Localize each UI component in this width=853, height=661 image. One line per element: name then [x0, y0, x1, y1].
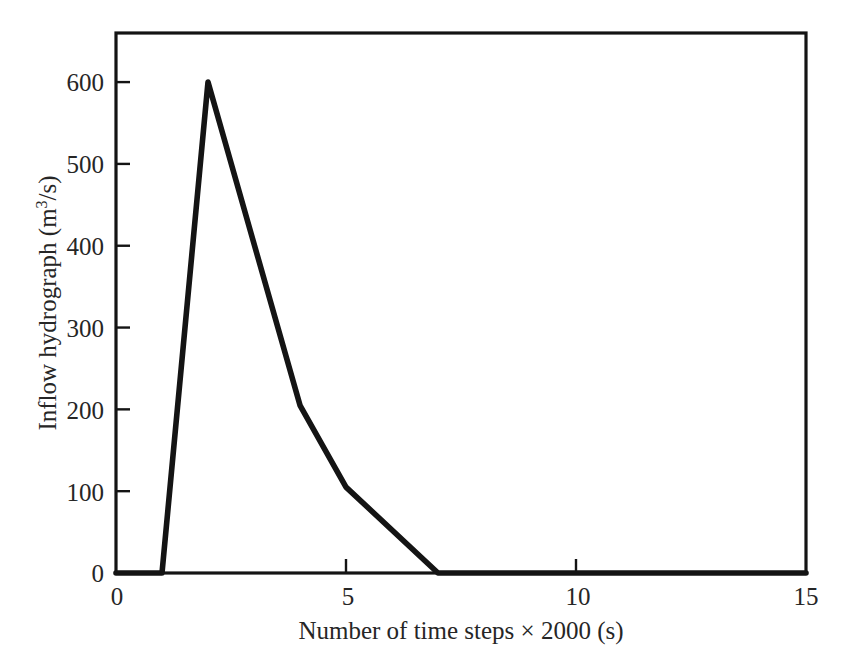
y-tick-label-200: 200	[67, 397, 105, 424]
y-axis-label: Inflow hydrograph (m3/s)	[33, 175, 62, 430]
y-tick-label-500: 500	[67, 151, 105, 178]
y-tick-label-300: 300	[67, 315, 105, 342]
svg-text:Inflow hydrograph (m3/s): Inflow hydrograph (m3/s)	[33, 175, 62, 430]
x-tick-label-15: 15	[794, 583, 819, 610]
y-axis-tick-labels: 600 500 400 300 200 100 0	[67, 69, 105, 587]
y-tick-label-0: 0	[92, 560, 105, 587]
x-axis-tick-labels: 0 5 10 15	[111, 583, 819, 610]
x-tick-label-10: 10	[566, 583, 591, 610]
y-tick-label-100: 100	[67, 479, 105, 506]
x-tick-label-0: 0	[111, 583, 124, 610]
y-tick-label-400: 400	[67, 233, 105, 260]
x-axis-label: Number of time steps × 2000 (s)	[298, 617, 623, 645]
y-axis-label-superscript: 3	[33, 200, 50, 208]
x-tick-label-5: 5	[342, 583, 355, 610]
y-axis-label-tail: /s)	[34, 175, 62, 200]
y-axis-label-main: Inflow hydrograph (m	[34, 208, 62, 431]
y-tick-label-600: 600	[67, 69, 105, 96]
inflow-hydrograph-chart: 600 500 400 300 200 100 0 0 5 10 15 Numb…	[0, 0, 853, 661]
figure-container: 600 500 400 300 200 100 0 0 5 10 15 Numb…	[0, 0, 853, 661]
